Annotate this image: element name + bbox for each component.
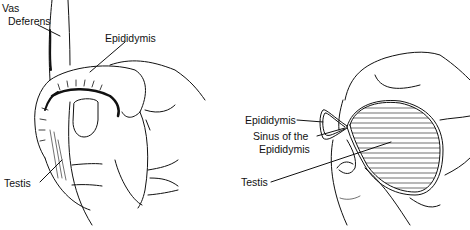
label-epididymis: Epididymis — [105, 32, 156, 44]
right-panel-sectional-view: Epididymis Sinus of the Epididymis Testi… — [235, 0, 470, 230]
label-testis: Testis — [4, 177, 31, 189]
epididymis-leader — [90, 42, 125, 72]
label-epididymis-right: Epididymis — [245, 114, 296, 126]
epididymis-leader-right — [297, 120, 323, 122]
label-vas-deferens-line1: Vas — [2, 2, 19, 14]
left-panel-hand-palpating-testis: Vas Deferens Epididymis Testis — [0, 0, 235, 230]
testis-leader — [40, 160, 62, 182]
label-sinus-line1: Sinus of the — [253, 130, 308, 142]
label-testis-right: Testis — [241, 176, 268, 188]
label-sinus-line2: Epididymis — [259, 143, 310, 155]
label-vas-deferens-line2: Deferens — [8, 15, 51, 27]
